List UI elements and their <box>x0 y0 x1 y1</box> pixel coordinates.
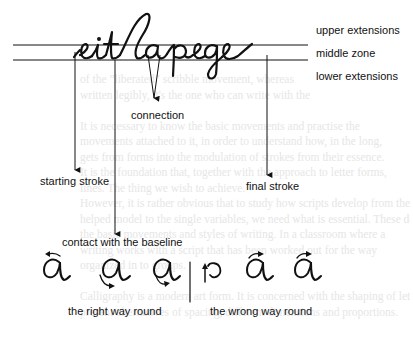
right-example-a-2 <box>100 260 130 289</box>
annotation-leaders <box>75 52 267 234</box>
label-final-stroke: final stroke <box>246 180 299 192</box>
label-lower-extensions: lower extensions <box>316 70 398 82</box>
label-right-way-round: the right way round <box>68 305 162 317</box>
right-example-g <box>154 260 180 287</box>
wrong-example-a-1 <box>247 251 273 280</box>
label-contact-with-baseline: contact with the baseline <box>62 236 182 248</box>
right-example-a-1 <box>44 251 70 280</box>
label-wrong-way-round: the wrong way round <box>210 305 312 317</box>
wrong-example-o <box>202 263 220 282</box>
cursive-sample-eitlapege <box>74 14 252 79</box>
label-starting-stroke: starting stroke <box>40 175 109 187</box>
wrong-example-a-2 <box>295 251 321 280</box>
label-connection: connection <box>131 109 184 121</box>
label-upper-extensions: upper extensions <box>316 24 400 36</box>
direction-examples <box>44 251 321 302</box>
label-middle-zone: middle zone <box>316 47 375 59</box>
